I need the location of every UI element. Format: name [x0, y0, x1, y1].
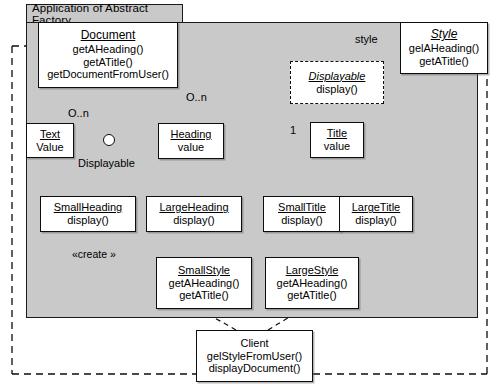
class-smallstyle-op-0: getAHeading(): [169, 277, 240, 290]
class-smallstyle-op-1: getATitle(): [179, 289, 229, 302]
class-smalltitle-op-0: display(): [281, 214, 323, 227]
class-document[interactable]: Document getAHeading() getATitle() getDo…: [38, 22, 178, 88]
class-smallheading-name: SmallHeading: [54, 201, 122, 214]
class-largetitle-name: LargeTitle: [352, 201, 401, 214]
class-smallstyle-name: SmallStyle: [178, 264, 230, 277]
class-displayable-name: Displayable: [309, 70, 366, 83]
edge-label-style: style: [355, 33, 378, 45]
class-largetitle-op-0: display(): [355, 214, 397, 227]
class-style-op-0: gelAHeading(): [409, 42, 479, 55]
class-largetitle[interactable]: LargeTitle display(): [339, 196, 413, 232]
edge-label-mult-title: 1: [290, 124, 296, 136]
class-document-name: Document: [81, 29, 136, 43]
class-document-op-1: getATitle(): [83, 56, 133, 69]
class-largeheading[interactable]: LargeHeading display(): [146, 196, 242, 232]
class-largestyle-name: LargeStyle: [286, 264, 339, 277]
edge-label-displayable-interface: Displayable: [78, 157, 135, 169]
class-style-name: Style: [431, 28, 458, 42]
edge-label-mult-heading: O..n: [186, 91, 207, 103]
class-client-name: Client: [240, 337, 268, 350]
class-largeheading-op-0: display(): [173, 214, 215, 227]
class-largeheading-name: LargeHeading: [159, 201, 228, 214]
class-text-attr-0: Value: [36, 141, 63, 154]
class-heading[interactable]: Heading value: [158, 123, 224, 159]
class-client-op-0: gelStyleFromUser(): [207, 350, 302, 363]
class-largestyle[interactable]: LargeStyle getAHeading() getATitle(): [265, 257, 359, 309]
class-smalltitle-name: SmallTitle: [278, 201, 326, 214]
class-smallheading[interactable]: SmallHeading display(): [40, 196, 136, 232]
class-client[interactable]: Client gelStyleFromUser() displayDocumen…: [196, 330, 313, 382]
class-text[interactable]: Text Value: [26, 123, 74, 158]
class-title[interactable]: Title value: [310, 122, 364, 158]
edge-label-mult-text: O..n: [68, 107, 89, 119]
displayable-interface-ball: [103, 134, 115, 146]
class-smallheading-op-0: display(): [67, 214, 109, 227]
class-title-name: Title: [327, 127, 347, 140]
class-heading-name: Heading: [171, 128, 212, 141]
uml-class-diagram: Application of Abstract Factory Document…: [0, 0, 497, 391]
class-largestyle-op-1: getATitle(): [287, 289, 337, 302]
class-client-op-1: displayDocument(): [209, 362, 301, 375]
class-smallstyle[interactable]: SmallStyle getAHeading() getATitle(): [156, 257, 252, 309]
class-displayable[interactable]: Displayable display(): [290, 61, 384, 104]
class-smalltitle[interactable]: SmallTitle display(): [263, 196, 341, 232]
class-style[interactable]: Style gelAHeading() getATitle(): [400, 22, 488, 74]
class-document-op-0: getAHeading(): [73, 43, 144, 56]
class-title-attr-0: value: [324, 140, 350, 153]
class-heading-attr-0: value: [178, 141, 204, 154]
class-text-name: Text: [40, 128, 60, 141]
class-style-op-1: getATitle(): [419, 55, 469, 68]
class-document-op-2: getDocumentFromUser(): [47, 68, 169, 81]
edge-label-create-stereotype: «create »: [72, 248, 116, 260]
class-displayable-op-0: display(): [316, 83, 358, 96]
class-largestyle-op-0: getAHeading(): [277, 277, 348, 290]
package-tab: Application of Abstract Factory: [26, 4, 183, 23]
